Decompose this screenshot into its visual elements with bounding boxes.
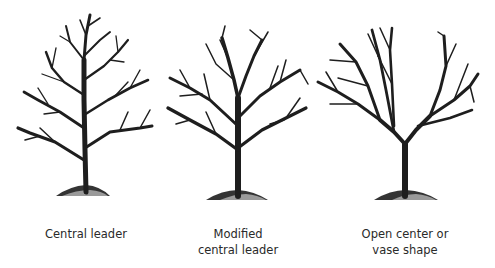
central-leader-label: Central leader: [26, 226, 146, 242]
label-line: vase shape: [345, 242, 465, 258]
label-line: central leader: [178, 242, 298, 258]
modified-central-leader-label: Modified central leader: [178, 226, 298, 258]
label-line: Central leader: [26, 226, 146, 242]
modified-central-leader-tree-illustration: [150, 0, 320, 210]
label-line: Modified: [178, 226, 298, 242]
open-center-label: Open center or vase shape: [345, 226, 465, 258]
open-center-tree-illustration: [310, 0, 495, 210]
central-leader-tree-illustration: [0, 0, 170, 210]
pruning-forms-diagram: Central leader Modified central leader O…: [0, 0, 495, 268]
label-line: Open center or: [345, 226, 465, 242]
